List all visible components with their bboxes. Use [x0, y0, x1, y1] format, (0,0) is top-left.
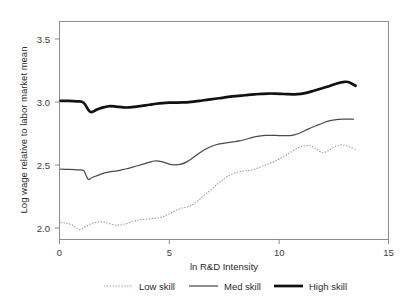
chart-background [0, 0, 405, 304]
x-axis-title: ln R&D Intensity [190, 261, 258, 272]
legend-label-med-skill: Med skill [224, 281, 261, 292]
legend-label-low-skill: Low skill [139, 281, 175, 292]
y-tick-label: 2.5 [37, 160, 50, 171]
chart-figure: 3.5 3.0 2.5 2.0 0 5 10 15 ln R&D Intensi… [0, 0, 405, 304]
y-tick-label: 3.5 [37, 34, 50, 45]
line-chart-svg: 3.5 3.0 2.5 2.0 0 5 10 15 ln R&D Intensi… [0, 0, 405, 304]
x-tick-label: 10 [274, 247, 285, 258]
legend: Low skill Med skill High skill [104, 281, 347, 292]
y-axis-title: Log wage relative to labor market mean [18, 47, 29, 214]
y-tick-label: 3.0 [37, 97, 50, 108]
x-tick-label: 0 [57, 247, 62, 258]
legend-label-high-skill: High skill [309, 281, 347, 292]
x-tick-label: 15 [383, 247, 394, 258]
y-tick-label: 2.0 [37, 223, 50, 234]
x-tick-label: 5 [167, 247, 172, 258]
